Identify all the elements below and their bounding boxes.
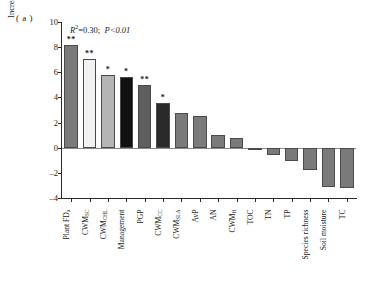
x-axis-line — [61, 198, 357, 199]
bar-cwm-cc — [156, 103, 170, 148]
x-tick-label: TP — [283, 210, 292, 270]
x-tick-mark — [126, 198, 127, 202]
bar-tn — [267, 148, 281, 155]
y-tick-mark — [58, 173, 62, 174]
x-tick-label-subscript: CC — [157, 210, 163, 217]
x-tick-label: TC — [338, 210, 347, 270]
panel-label: ( a ) — [16, 13, 33, 23]
bar-pgp — [138, 85, 152, 147]
bar-tc — [340, 148, 354, 188]
x-tick-label-subscript: CHL — [102, 210, 108, 221]
significance-marker: * — [124, 68, 129, 76]
y-tick-mark — [58, 22, 62, 23]
x-tick-label: Species richness — [301, 210, 310, 270]
x-tick-mark — [255, 198, 256, 202]
x-tick-mark — [218, 198, 219, 202]
bar-cwm-sc — [83, 59, 97, 148]
x-tick-label: CWMCHL — [99, 210, 108, 270]
x-tick-mark — [71, 198, 72, 202]
x-tick-label-subscript: SC — [84, 210, 90, 217]
x-tick-label: CWMCC — [154, 210, 163, 270]
x-tick-mark — [90, 198, 91, 202]
y-tick-mark — [58, 47, 62, 48]
bar-cwm-chl — [101, 75, 115, 147]
y-tick-mark — [58, 72, 62, 73]
significance-marker: * — [106, 66, 111, 74]
y-axis-label: Increase in MSE ( % ) — [6, 0, 16, 40]
x-tick-mark — [163, 198, 164, 202]
significance-marker: ** — [85, 50, 94, 58]
bar-cwm-h — [230, 138, 244, 147]
x-tick-mark — [347, 198, 348, 202]
x-tick-label: CWMH — [228, 210, 237, 270]
x-tick-mark — [145, 198, 146, 202]
significance-marker: * — [161, 94, 166, 102]
x-tick-mark — [273, 198, 274, 202]
x-tick-mark — [237, 198, 238, 202]
y-tick-label: –2 — [50, 169, 59, 178]
x-tick-label: PGP — [136, 210, 145, 270]
bar-tp — [285, 148, 299, 161]
bar-cwm-sla — [175, 113, 189, 148]
x-tick-mark — [200, 198, 201, 202]
bar-soil-moisture — [322, 148, 336, 188]
x-tick-label: TOC — [246, 210, 255, 270]
y-tick-mark — [58, 97, 62, 98]
bar-an — [211, 135, 225, 148]
bar-toc — [248, 148, 262, 150]
x-tick-label: CWMSC — [81, 210, 90, 270]
x-tick-label: Management — [117, 210, 126, 270]
plot-area: 1086420–2–4 ********* — [62, 22, 356, 198]
y-tick-mark — [58, 123, 62, 124]
figure-panel: ( a ) Increase in MSE ( % ) R2=0.30; P<0… — [0, 0, 387, 300]
x-tick-label: Soil moisture — [319, 210, 328, 270]
x-tick-label-subscript: H — [231, 210, 237, 214]
x-tick-mark — [292, 198, 293, 202]
x-tick-label: CWMSLA — [172, 210, 181, 270]
x-tick-label-subscript: SLA — [176, 210, 182, 220]
x-tick-label-subscript: u — [65, 210, 71, 213]
y-tick-label: –4 — [50, 194, 59, 203]
bar-species-richness — [303, 148, 317, 171]
bar-management — [120, 77, 134, 148]
significance-marker: ** — [140, 76, 149, 84]
x-tick-label: TN — [264, 210, 273, 270]
x-tick-mark — [108, 198, 109, 202]
y-tick-label: 10 — [50, 18, 59, 27]
x-tick-label: AvP — [191, 210, 200, 270]
x-tick-mark — [328, 198, 329, 202]
bar-avp — [193, 116, 207, 148]
bar-plant-fd-u — [64, 45, 78, 147]
significance-marker: ** — [67, 36, 76, 44]
y-tick-mark — [58, 198, 62, 199]
x-tick-label: AN — [209, 210, 218, 270]
x-tick-mark — [181, 198, 182, 202]
x-tick-mark — [310, 198, 311, 202]
x-tick-label: Plant FDu — [62, 210, 71, 270]
